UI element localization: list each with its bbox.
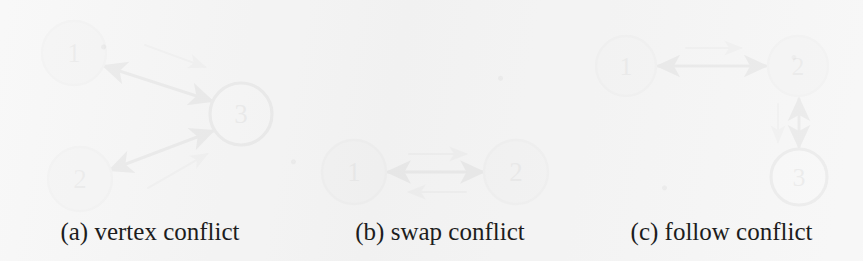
node-b-2[interactable]: 2: [484, 140, 548, 204]
node-label: 1: [67, 38, 81, 68]
node-a-1[interactable]: 1: [42, 21, 106, 85]
panel-b: 1 2: [322, 140, 548, 204]
panel-c-move-arrows: [686, 48, 778, 142]
node-label: 3: [234, 99, 248, 129]
node-c-3[interactable]: 3: [771, 149, 827, 205]
node-label: 1: [620, 52, 633, 81]
node-label: 3: [793, 163, 806, 192]
node-b-1[interactable]: 1: [322, 140, 386, 204]
node-c-2[interactable]: 2: [768, 36, 828, 96]
panel-c: 1 2 3: [596, 36, 828, 205]
move-arrow-1-to-3: [145, 45, 205, 67]
caption-panel-a: (a) vertex conflict: [0, 219, 300, 244]
node-a-2[interactable]: 2: [48, 147, 112, 211]
node-c-1[interactable]: 1: [596, 36, 656, 96]
panel-a-edges: [104, 66, 213, 170]
panel-a: 1 2 3: [42, 21, 272, 211]
node-label: 2: [792, 52, 805, 81]
move-arrow-2-to-3: [148, 154, 207, 188]
node-label: 2: [509, 157, 523, 187]
caption-panel-b: (b) swap conflict: [300, 219, 580, 244]
node-label: 2: [73, 164, 87, 194]
node-label: 1: [347, 157, 361, 187]
caption-panel-c: (c) follow conflict: [580, 219, 863, 244]
edge-1-3: [104, 66, 212, 101]
panel-a-move-arrows: [145, 45, 207, 188]
node-a-3[interactable]: 3: [210, 83, 272, 145]
edge-2-3: [110, 131, 213, 170]
